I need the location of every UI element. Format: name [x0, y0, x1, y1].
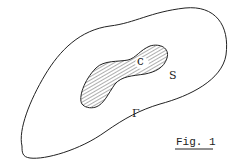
- hatched-region-s: [81, 45, 168, 108]
- point-c-label: c: [137, 55, 144, 67]
- curve-gamma-label: Γ: [132, 108, 140, 119]
- figure-caption: Fig. 1: [176, 137, 216, 148]
- region-s-label: S: [169, 70, 177, 81]
